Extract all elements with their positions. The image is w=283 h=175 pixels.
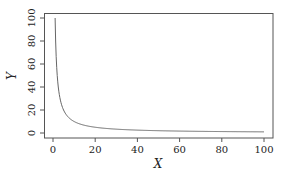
x-axis: 020406080100 bbox=[50, 138, 274, 155]
y-tick-label: 80 bbox=[26, 35, 37, 48]
line-chart: 020406080100 020406080100 X Y bbox=[0, 0, 283, 175]
y-tick-label: 40 bbox=[26, 81, 37, 94]
y-axis: 020406080100 bbox=[26, 8, 45, 136]
plot-box bbox=[45, 14, 274, 139]
y-tick-label: 60 bbox=[26, 58, 37, 71]
x-tick-label: 80 bbox=[215, 144, 228, 155]
y-tick-label: 20 bbox=[26, 104, 37, 117]
data-line bbox=[55, 18, 264, 132]
y-tick-label: 0 bbox=[26, 130, 37, 136]
x-tick-label: 60 bbox=[173, 144, 186, 155]
x-tick-label: 0 bbox=[50, 144, 56, 155]
x-axis-title: X bbox=[153, 157, 163, 171]
x-tick-label: 40 bbox=[131, 144, 144, 155]
y-tick-label: 100 bbox=[26, 8, 37, 27]
x-tick-label: 100 bbox=[254, 144, 273, 155]
x-tick-label: 20 bbox=[89, 144, 102, 155]
y-axis-title: Y bbox=[5, 71, 19, 80]
